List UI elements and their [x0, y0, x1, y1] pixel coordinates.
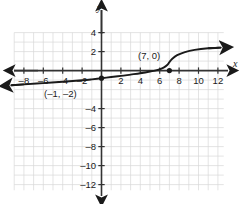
x-tick-label: 10	[193, 75, 204, 86]
canvas-background	[0, 0, 247, 204]
y-tick-label: –8	[85, 141, 96, 152]
x-tick-label: 8	[176, 75, 181, 86]
y-tick-label: –12	[80, 179, 96, 190]
y-tick-label: –6	[85, 122, 96, 133]
y-axis-label: y	[96, 2, 102, 13]
y-tick-label: 2	[91, 46, 96, 57]
y-tick-label: 4	[91, 27, 96, 38]
coordinate-graph: –8–6–4–224681012 42–4–6–8–10–12 x y (7, …	[0, 0, 247, 204]
x-tick-label: 6	[157, 75, 162, 86]
annotation-point-upper: (7, 0)	[138, 50, 160, 61]
x-tick-label: 4	[138, 75, 143, 86]
x-tick-label: 12	[213, 75, 224, 86]
x-axis-label: x	[232, 58, 238, 69]
y-tick-label: –10	[80, 160, 96, 171]
marked-point	[167, 68, 172, 73]
curve-arrow-left	[11, 84, 24, 85]
x-tick-label: –6	[38, 75, 49, 86]
graph-svg: –8–6–4–224681012 42–4–6–8–10–12 x y (7, …	[0, 0, 247, 204]
curve-arrow-right	[208, 48, 221, 49]
annotation-point-lower: (–1, –2)	[44, 88, 77, 99]
y-tick-label: –4	[85, 103, 96, 114]
marked-point	[99, 76, 104, 81]
